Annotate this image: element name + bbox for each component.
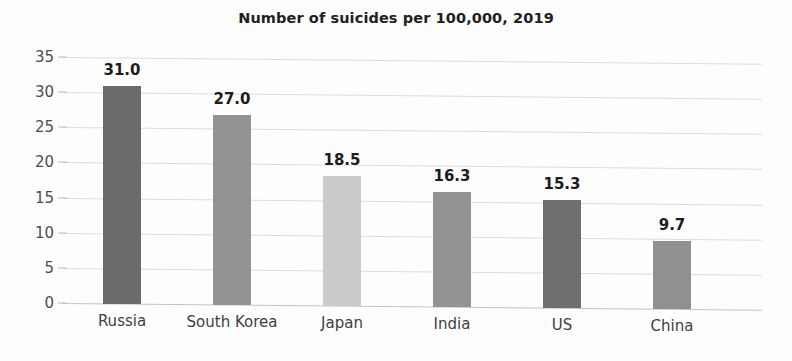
bar-value-label: 16.3 bbox=[411, 167, 493, 185]
y-axis-tick-label: 30 bbox=[18, 83, 54, 101]
y-axis-tick-label: 0 bbox=[18, 294, 54, 312]
bar-value-label: 31.0 bbox=[81, 61, 163, 79]
y-axis-tick-mark bbox=[58, 92, 67, 93]
bar-group[interactable]: 9.7China bbox=[653, 0, 691, 361]
plot-area: 0510152025303531.0Russia27.0South Korea1… bbox=[0, 0, 792, 361]
bar-group[interactable]: 16.3India bbox=[433, 0, 471, 361]
bar-value-label: 15.3 bbox=[521, 175, 603, 193]
bar-value-label: 27.0 bbox=[191, 90, 273, 108]
bar-group[interactable]: 31.0Russia bbox=[103, 0, 141, 361]
x-axis-category-label: China bbox=[603, 317, 741, 335]
y-axis-tick-mark bbox=[58, 303, 67, 304]
bar-group[interactable]: 15.3US bbox=[543, 0, 581, 361]
bar[interactable] bbox=[433, 192, 471, 307]
y-axis-tick-label: 10 bbox=[18, 224, 54, 242]
y-axis-tick-label: 20 bbox=[18, 153, 54, 171]
bar[interactable] bbox=[653, 241, 691, 309]
bar-group[interactable]: 27.0South Korea bbox=[213, 0, 251, 361]
bar[interactable] bbox=[543, 200, 581, 308]
bar[interactable] bbox=[213, 115, 251, 305]
bar-group[interactable]: 18.5Japan bbox=[323, 0, 361, 361]
y-axis-tick-label: 25 bbox=[18, 118, 54, 136]
y-axis-tick-mark bbox=[58, 197, 67, 198]
y-axis-tick-mark bbox=[58, 127, 67, 128]
y-axis-tick-mark bbox=[58, 267, 67, 268]
y-axis-tick-label: 15 bbox=[18, 189, 54, 207]
y-axis-tick-mark bbox=[58, 57, 67, 58]
y-axis-tick-mark bbox=[58, 162, 67, 163]
bar[interactable] bbox=[323, 176, 361, 306]
bar[interactable] bbox=[103, 86, 141, 304]
y-axis-tick-label: 35 bbox=[18, 48, 54, 66]
y-axis-tick-mark bbox=[58, 232, 67, 233]
y-axis-tick-label: 5 bbox=[18, 259, 54, 277]
bar-value-label: 9.7 bbox=[631, 216, 713, 234]
bar-value-label: 18.5 bbox=[301, 151, 383, 169]
